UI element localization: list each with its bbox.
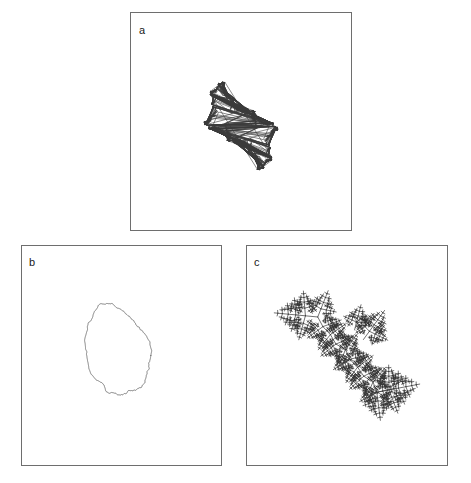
panel-b: b <box>21 245 222 466</box>
panel-c: c <box>246 245 448 466</box>
panel-b-curve <box>85 303 152 395</box>
figure-canvas: a b <box>0 0 471 483</box>
panel-a: a <box>130 12 352 231</box>
panel-a-ticks <box>130 12 352 231</box>
panel-c-plot <box>246 245 448 466</box>
panel-b-label: b <box>29 257 35 268</box>
panel-c-label: c <box>254 257 260 268</box>
panel-c-curve <box>274 291 419 421</box>
panel-c-ticks <box>246 245 448 466</box>
panel-c-frame <box>247 246 448 466</box>
panel-a-plot <box>130 12 352 231</box>
panel-b-frame <box>22 246 222 466</box>
panel-b-ticks <box>21 245 222 466</box>
panel-b-plot <box>21 245 222 466</box>
panel-a-label: a <box>139 25 145 36</box>
panel-a-frame <box>131 13 352 231</box>
panel-a-curve <box>204 82 278 170</box>
